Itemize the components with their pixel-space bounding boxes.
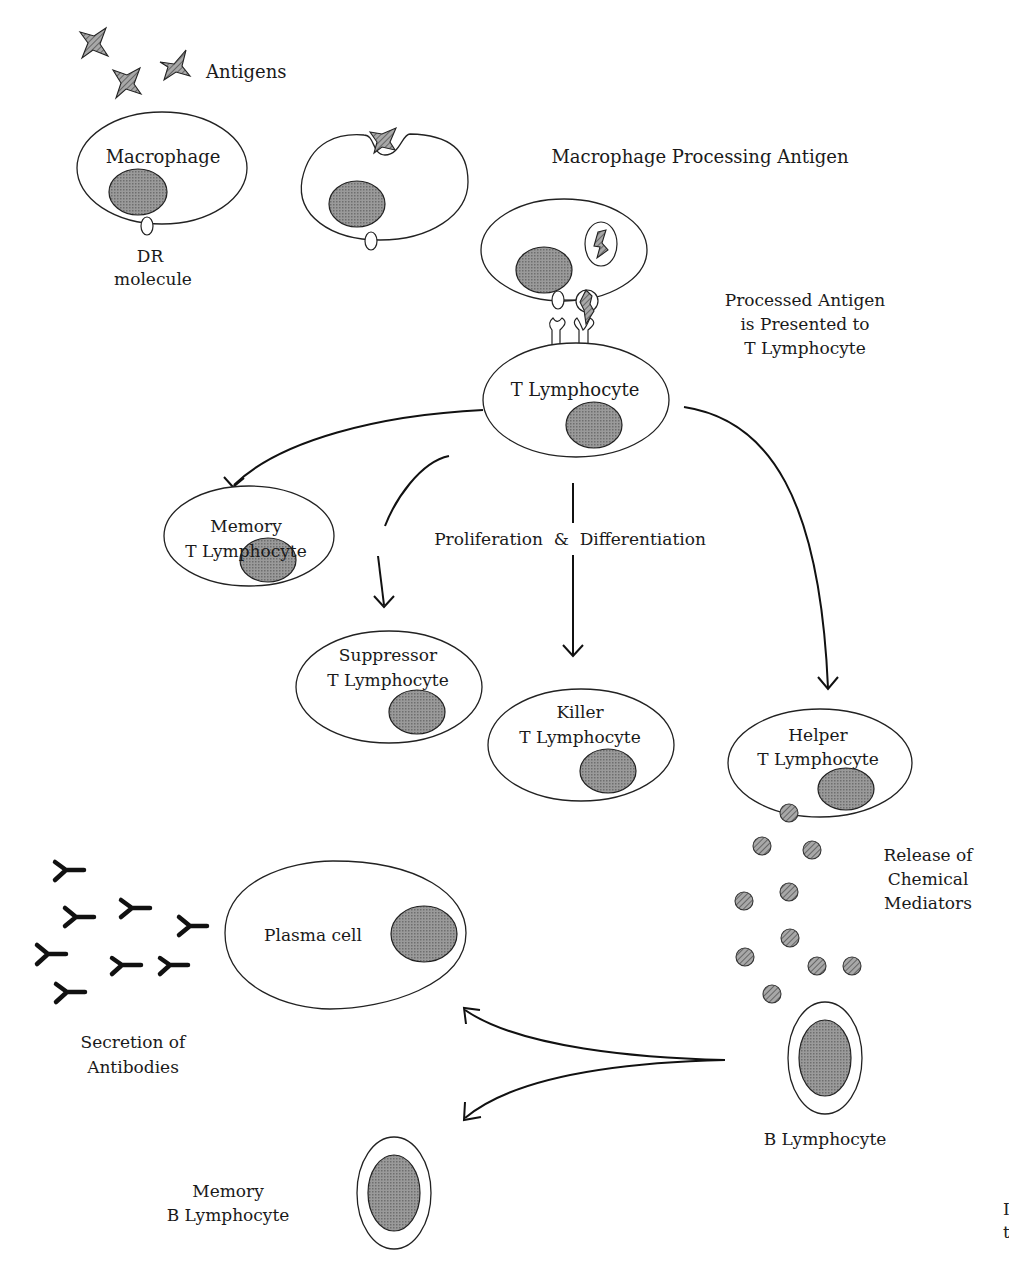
edge-text-fragment: t xyxy=(1003,1222,1009,1242)
mediator-icon xyxy=(808,957,826,975)
suppressor-t-label-2: T Lymphocyte xyxy=(327,670,449,690)
mediator-icon xyxy=(763,985,781,1003)
b-lymphocyte-cell xyxy=(788,1002,862,1114)
memory-t-lymphocyte-cell xyxy=(164,486,334,586)
antibody-icon xyxy=(37,945,66,964)
memory-b-label-1: Memory xyxy=(192,1181,264,1201)
macrophage-engulfing-cell xyxy=(301,128,468,250)
mediator-icon xyxy=(736,948,754,966)
secretion-label-2: Antibodies xyxy=(86,1057,179,1077)
helper-t-label-1: Helper xyxy=(788,725,848,745)
memory-t-label-1: Memory xyxy=(210,516,282,536)
dr-molecule-label-1: DR xyxy=(137,246,165,266)
proliferation-label: Proliferation & Differentiation xyxy=(434,529,706,549)
macrophage-nucleus xyxy=(109,169,167,215)
arrow-to-memory-b xyxy=(465,1060,725,1118)
antibody-icon xyxy=(179,917,207,935)
mediator-icon xyxy=(780,883,798,901)
dr-molecule-label-2: molecule xyxy=(114,269,192,289)
dr-molecule-icon xyxy=(141,217,153,235)
arrow-to-memory-t xyxy=(234,410,483,485)
helper-t-label-2: T Lymphocyte xyxy=(757,749,879,769)
antibody-icon xyxy=(65,908,94,926)
antigens-label: Antigens xyxy=(205,61,287,82)
macrophage-processing-cell xyxy=(481,199,647,324)
antigen-group xyxy=(80,28,190,98)
macrophage-processing-label: Macrophage Processing Antigen xyxy=(551,146,849,167)
mediator-icon xyxy=(753,837,771,855)
memory-b-lymphocyte-cell xyxy=(357,1137,431,1249)
suppressor-t-label-1: Suppressor xyxy=(339,645,438,665)
arrow-to-suppressor-t xyxy=(385,456,449,526)
arrow-to-plasma-cell xyxy=(465,1010,725,1060)
immune-response-diagram: Antigens Macrophage DR molecule Macropha… xyxy=(0,0,1009,1273)
presented-label-2: is Presented to xyxy=(740,314,869,334)
memory-t-label-2: T Lymphocyte xyxy=(185,541,307,561)
edge-text-fragment: I xyxy=(1003,1199,1009,1219)
mediator-icon xyxy=(803,841,821,859)
mediator-icon xyxy=(781,929,799,947)
presented-label-1: Processed Antigen xyxy=(725,290,886,310)
t-lymphocyte-label: T Lymphocyte xyxy=(511,379,640,400)
plasma-cell-label: Plasma cell xyxy=(264,925,362,945)
mediator-icon xyxy=(843,957,861,975)
antibodies xyxy=(37,862,207,1002)
antibody-icon xyxy=(56,984,85,1002)
antigen-icon xyxy=(160,50,190,80)
release-label-3: Mediators xyxy=(884,893,972,913)
b-lymphocyte-label: B Lymphocyte xyxy=(764,1129,887,1149)
antibody-icon xyxy=(160,958,188,974)
t-lymphocyte-cell xyxy=(483,343,669,457)
release-label-2: Chemical xyxy=(888,869,969,889)
antigen-icon xyxy=(80,28,108,58)
mediator-icon xyxy=(735,892,753,910)
mediator-icon xyxy=(780,804,798,822)
killer-t-label-1: Killer xyxy=(556,702,604,722)
antibody-icon xyxy=(112,958,141,974)
dr-molecule-icon xyxy=(552,291,564,309)
antigen-icon xyxy=(113,68,141,98)
macrophage-label: Macrophage xyxy=(106,146,221,167)
release-label-1: Release of xyxy=(883,845,974,865)
antibody-icon xyxy=(55,862,84,880)
b-differentiation-arrows xyxy=(464,1008,725,1120)
memory-b-label-2: B Lymphocyte xyxy=(167,1205,290,1225)
dr-molecule-icon xyxy=(365,232,377,250)
killer-t-label-2: T Lymphocyte xyxy=(519,727,641,747)
antibody-icon xyxy=(121,900,150,917)
chemical-mediators xyxy=(735,804,861,1003)
macrophage-cell xyxy=(77,112,247,235)
secretion-label-1: Secretion of xyxy=(81,1032,188,1052)
presented-label-3: T Lymphocyte xyxy=(744,338,866,358)
